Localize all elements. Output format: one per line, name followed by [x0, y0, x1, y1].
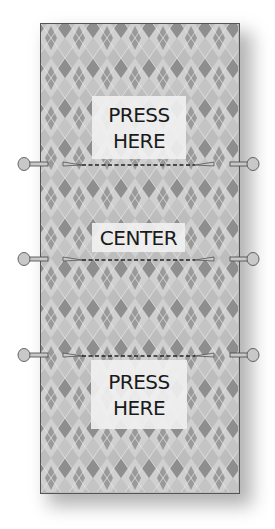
center-label: CENTER — [92, 223, 185, 252]
center-label-text: CENTER — [100, 225, 177, 251]
right-pin-icon — [230, 158, 259, 171]
left-pin-icon — [18, 253, 48, 266]
upper-fold-line — [0, 157, 275, 171]
left-pin-icon — [18, 158, 48, 171]
top-label-line2: HERE — [113, 128, 165, 154]
lower-fold-line — [0, 348, 275, 362]
bottom-label-line1: PRESS — [108, 369, 169, 395]
center-fold-line — [0, 252, 275, 266]
top-label-line1: PRESS — [108, 102, 169, 128]
bottom-label-line2: HERE — [113, 395, 165, 421]
right-pin-icon — [230, 349, 259, 362]
right-pin-icon — [230, 253, 259, 266]
top-press-here-label: PRESS HERE — [92, 96, 186, 159]
left-pin-icon — [18, 349, 48, 362]
bottom-press-here-label: PRESS HERE — [91, 360, 187, 429]
